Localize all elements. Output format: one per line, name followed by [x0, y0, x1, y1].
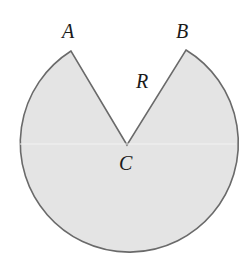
point-b-label: B	[176, 20, 188, 42]
point-a-label: A	[60, 20, 75, 42]
point-c-label: C	[119, 152, 133, 174]
sector-diagram: A B C R	[0, 0, 245, 266]
region-r-label: R	[135, 70, 148, 92]
